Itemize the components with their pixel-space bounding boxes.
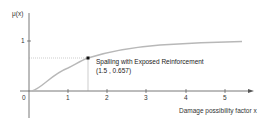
x-axis-label: Damage possibility factor x (179, 108, 257, 115)
x-tick-label-4: 4 (184, 95, 188, 102)
x-axis-arrow-icon (248, 89, 254, 93)
y-tick-label-1: 1 (21, 38, 25, 45)
x-tick-label-3: 3 (144, 95, 148, 102)
annotation-coords: (1.5 , 0.657) (96, 67, 131, 76)
annotation-title: Spalling with Exposed Reinforcement (96, 58, 204, 67)
data-point-marker (87, 57, 90, 60)
x-tick-label-5: 5 (223, 95, 227, 102)
x-tick-label-1: 1 (66, 95, 70, 102)
x-tick-label-2: 2 (105, 95, 109, 102)
x-tick-label-0: 0 (22, 95, 26, 102)
y-axis-label: μ(x) (12, 11, 23, 18)
